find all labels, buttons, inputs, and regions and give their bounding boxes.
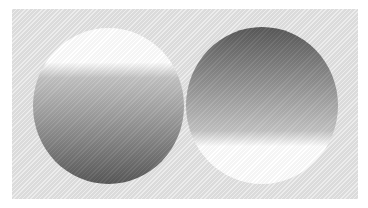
concave-shaded-circle: Circle lit from below: dark gray at top … <box>186 27 338 184</box>
convex-shaded-circle: Circle lit from above: white at top fadi… <box>33 28 184 184</box>
